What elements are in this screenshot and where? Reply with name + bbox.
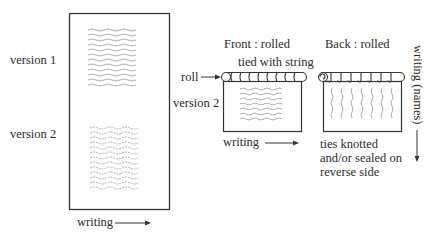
- left-writing-arrow-icon: [115, 221, 151, 226]
- back-note-line-2: and/or sealed on: [320, 152, 402, 165]
- version1-label: version 1: [10, 54, 56, 67]
- version2-writing-block: [90, 127, 138, 189]
- roll-arrow-icon: [201, 75, 221, 80]
- left-writing-label: writing: [77, 216, 113, 229]
- front-title: Front : rolled: [224, 38, 290, 51]
- writing-names-vertical-label: writing (names): [412, 45, 425, 125]
- back-title: Back : rolled: [325, 38, 390, 51]
- names-down-arrow-icon: [415, 130, 420, 162]
- version2-label: version 2: [10, 128, 56, 141]
- back-writing-columns: [331, 88, 393, 118]
- tie-label: tied with string: [238, 56, 314, 69]
- front-sheet: [224, 82, 302, 132]
- left-sheet: [70, 14, 170, 210]
- version1-writing-block: [88, 29, 136, 86]
- back-roll-icon: [319, 73, 405, 83]
- front-writing-label: writing: [223, 136, 259, 149]
- front-writing-arrow-icon: [265, 141, 299, 146]
- front-writing-block: [240, 88, 282, 120]
- back-note-line-1: ties knotted: [320, 138, 378, 151]
- front-version-label: version 2: [173, 97, 219, 110]
- back-note-line-3: reverse side: [320, 166, 379, 179]
- roll-label: roll: [181, 71, 198, 84]
- front-roll-icon: [222, 73, 307, 82]
